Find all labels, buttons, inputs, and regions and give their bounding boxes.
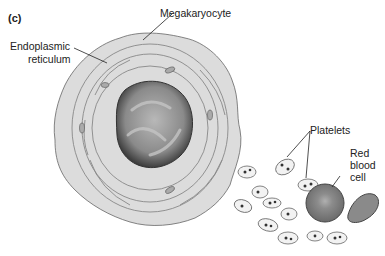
label-er-line2: reticulum: [28, 53, 71, 65]
label-rbc-line1: Red: [350, 147, 369, 159]
label-rbc-line2: blood: [350, 159, 376, 171]
megakaryocyte-cell: [54, 33, 241, 225]
label-platelets: Platelets: [310, 124, 350, 136]
label-rbc-line3: cell: [350, 171, 366, 183]
red-blood-cell: [306, 184, 379, 223]
panel-label: (c): [8, 12, 21, 24]
label-megakaryocyte: Megakaryocyte: [160, 7, 231, 19]
nucleus: [116, 81, 192, 167]
label-er-line1: Endoplasmic: [10, 40, 70, 52]
